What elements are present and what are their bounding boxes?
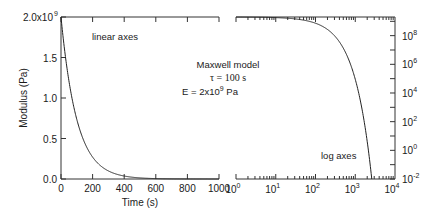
left-x-tick-label: 0 [58, 183, 64, 194]
right-y-tick-label: 102 [402, 115, 417, 128]
maxwell-relaxation-chart: 020040060080010000.00.51.01.52.0x109 100… [0, 0, 434, 215]
model-info-box: Maxwell model τ = 100 s E = 2x109 Pa [182, 59, 259, 97]
linear-axes-annotation: linear axes [92, 31, 138, 42]
left-y-top-exponent: 9 [54, 10, 58, 17]
left-x-tick-label: 400 [116, 183, 133, 194]
right-x-tick-label: 102 [305, 182, 320, 195]
y-axis-label: Modulus (Pa) [18, 68, 29, 127]
right-y-tick-label: 104 [402, 86, 417, 99]
log-axes-annotation: log axes [321, 150, 357, 161]
log-panel: 10010110210310410-2100102104106108 [225, 17, 419, 195]
right-y-tick-label: 100 [402, 143, 417, 156]
right-x-tick-label: 104 [384, 182, 399, 195]
linear-decay-curve [61, 17, 219, 179]
right-y-tick-label: 10-2 [402, 172, 419, 185]
model-tau: τ = 100 s [210, 72, 246, 83]
left-x-tick-label: 800 [179, 183, 196, 194]
right-x-tick-label: 103 [345, 182, 360, 195]
right-y-tick-label: 106 [402, 57, 417, 70]
left-x-tick-label: 600 [147, 183, 164, 194]
left-y-tick-label: 1.0 [43, 93, 57, 104]
right-y-tick-label: 108 [402, 29, 417, 42]
model-name: Maxwell model [197, 59, 260, 70]
left-y-tick-label: 1.5 [43, 53, 57, 64]
right-x-tick-label: 101 [265, 182, 280, 195]
left-x-tick-label: 200 [84, 183, 101, 194]
left-y-tick-label: 2.0x10 [23, 12, 53, 23]
left-y-tick-label: 0.5 [43, 134, 57, 145]
model-modulus: E = 2x109 Pa [182, 85, 239, 97]
left-y-tick-label: 0.0 [43, 174, 57, 185]
x-axis-label: Time (s) [122, 197, 158, 208]
right-x-tick-label: 100 [225, 182, 240, 195]
